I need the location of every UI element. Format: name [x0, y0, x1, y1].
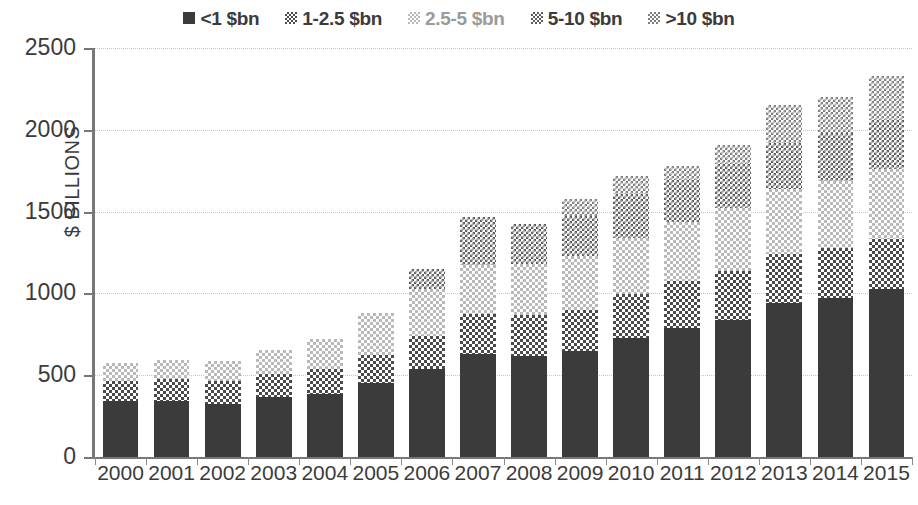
bar-2002[interactable]: [205, 48, 241, 457]
bar-segment[interactable]: [562, 216, 598, 256]
bar-segment[interactable]: [154, 401, 190, 457]
x-tick-label: 2004: [299, 462, 350, 483]
bar-segment[interactable]: [766, 143, 802, 189]
bar-segment[interactable]: [715, 145, 751, 165]
bar-2004[interactable]: [307, 48, 343, 457]
bar-2003[interactable]: [256, 48, 292, 457]
bar-segment[interactable]: [205, 361, 241, 381]
bar-segment[interactable]: [511, 356, 547, 457]
x-tick-label: 2010: [606, 462, 657, 483]
bar-segment[interactable]: [869, 76, 905, 120]
bar-2013[interactable]: [766, 48, 802, 457]
x-tick-label: 2014: [810, 462, 861, 483]
bar-segment[interactable]: [562, 199, 598, 215]
legend-item[interactable]: >10 $bn: [648, 9, 734, 28]
bar-segment[interactable]: [103, 401, 139, 457]
bar-segment[interactable]: [613, 338, 649, 457]
y-tick-label: 1000: [18, 281, 76, 304]
bar-segment[interactable]: [358, 383, 394, 457]
y-tick-label: 2500: [18, 36, 76, 59]
bar-segment[interactable]: [766, 303, 802, 457]
bar-segment[interactable]: [715, 271, 751, 319]
bar-2005[interactable]: [358, 48, 394, 457]
bar-segment[interactable]: [562, 351, 598, 457]
bar-segment[interactable]: [664, 166, 700, 180]
legend-item[interactable]: 2.5-5 $bn: [408, 9, 505, 28]
bar-segment[interactable]: [358, 313, 394, 355]
bar-2006[interactable]: [409, 48, 445, 457]
bar-segment[interactable]: [869, 289, 905, 458]
bar-2000[interactable]: [103, 48, 139, 457]
bar-segment[interactable]: [460, 217, 496, 265]
bar-segment[interactable]: [154, 360, 190, 379]
bar-2015[interactable]: [869, 48, 905, 457]
legend-item[interactable]: <1 $bn: [183, 9, 259, 28]
bar-segment[interactable]: [562, 256, 598, 310]
bar-segment[interactable]: [511, 315, 547, 357]
bar-segment[interactable]: [307, 394, 343, 457]
bar-segment[interactable]: [715, 164, 751, 208]
bar-segment[interactable]: [818, 248, 854, 297]
stacked-bar-chart: <1 $bn1-2.5 $bn2.5-5 $bn5-10 $bn>10 $bn …: [0, 0, 918, 505]
bar-segment[interactable]: [460, 354, 496, 457]
legend-swatch-icon: [408, 12, 420, 24]
bar-segment[interactable]: [613, 194, 649, 237]
x-tick-label: 2001: [146, 462, 197, 483]
bar-2010[interactable]: [613, 48, 649, 457]
bar-segment[interactable]: [664, 222, 700, 281]
bar-segment[interactable]: [562, 310, 598, 352]
bar-segment[interactable]: [256, 350, 292, 374]
bar-segment[interactable]: [256, 374, 292, 398]
bar-segment[interactable]: [766, 105, 802, 143]
legend-item[interactable]: 1-2.5 $bn: [285, 9, 382, 28]
bar-segment[interactable]: [613, 238, 649, 294]
bar-segment[interactable]: [358, 355, 394, 383]
bar-segment[interactable]: [766, 189, 802, 254]
bar-segment[interactable]: [715, 320, 751, 457]
y-tick-label: 2000: [18, 118, 76, 141]
bar-2012[interactable]: [715, 48, 751, 457]
bar-segment[interactable]: [664, 180, 700, 223]
chart-legend: <1 $bn1-2.5 $bn2.5-5 $bn5-10 $bn>10 $bn: [0, 4, 918, 32]
bar-segment[interactable]: [869, 169, 905, 239]
bar-2014[interactable]: [818, 48, 854, 457]
bar-segment[interactable]: [154, 379, 190, 401]
bar-segment[interactable]: [409, 289, 445, 336]
bar-segment[interactable]: [664, 328, 700, 457]
bar-segment[interactable]: [460, 314, 496, 354]
bar-segment[interactable]: [613, 176, 649, 195]
bar-segment[interactable]: [256, 397, 292, 457]
bar-2011[interactable]: [664, 48, 700, 457]
bar-segment[interactable]: [307, 369, 343, 394]
legend-label: <1 $bn: [200, 9, 259, 28]
bar-segment[interactable]: [818, 298, 854, 458]
bar-segment[interactable]: [307, 339, 343, 368]
bar-2007[interactable]: [460, 48, 496, 457]
bar-segment[interactable]: [715, 208, 751, 271]
bar-segment[interactable]: [664, 281, 700, 328]
x-tick-label: 2012: [708, 462, 759, 483]
x-axis-line: [92, 457, 912, 459]
bar-segment[interactable]: [103, 363, 139, 381]
bar-segment[interactable]: [613, 294, 649, 338]
bar-segment[interactable]: [511, 264, 547, 315]
bar-segment[interactable]: [766, 254, 802, 303]
bar-2001[interactable]: [154, 48, 190, 457]
x-tick-label: 2005: [350, 462, 401, 483]
bar-segment[interactable]: [409, 269, 445, 289]
legend-item[interactable]: 5-10 $bn: [531, 9, 623, 28]
bar-segment[interactable]: [818, 181, 854, 249]
bar-segment[interactable]: [460, 265, 496, 314]
bar-segment[interactable]: [205, 404, 241, 457]
bar-2008[interactable]: [511, 48, 547, 457]
bar-segment[interactable]: [409, 336, 445, 369]
bar-2009[interactable]: [562, 48, 598, 457]
bar-segment[interactable]: [205, 381, 241, 404]
bar-segment[interactable]: [869, 120, 905, 169]
bar-segment[interactable]: [511, 224, 547, 264]
bar-segment[interactable]: [409, 369, 445, 457]
bar-segment[interactable]: [103, 381, 139, 401]
bar-segment[interactable]: [818, 133, 854, 180]
bar-segment[interactable]: [818, 97, 854, 133]
bar-segment[interactable]: [869, 239, 905, 288]
